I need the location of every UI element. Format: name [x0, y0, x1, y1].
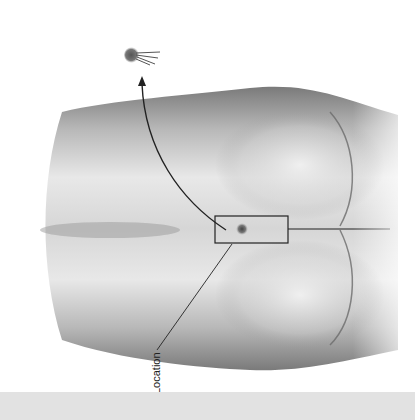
footer-band [0, 392, 415, 420]
lesion-dot [236, 223, 248, 235]
anatomical-figure: Location [0, 0, 415, 392]
torso-illustration [0, 0, 415, 392]
location-label: Location [150, 352, 162, 394]
